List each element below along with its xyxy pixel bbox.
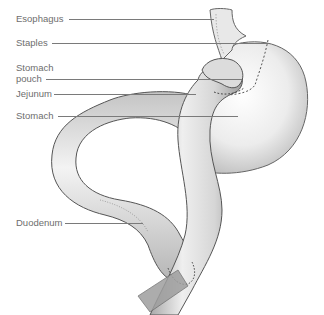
leader-line-esophagus [69,19,214,20]
label-esophagus: Esophagus [16,13,64,24]
label-duodenum: Duodenum [16,217,62,228]
leader-line-stomach-pouch [46,79,242,80]
label-stomach-pouch-line2: pouch [16,73,42,84]
label-jejunum: Jejunum [16,88,52,99]
leader-line-staples [52,43,268,44]
leader-line-jejunum [54,94,196,95]
label-stomach-pouch-line1: Stomach [16,62,54,73]
leader-line-stomach [58,116,238,117]
leader-line-duodenum [65,223,143,224]
gastric-bypass-diagram: Esophagus Staples Stomach pouch Jejunum … [0,0,324,315]
label-staples: Staples [16,37,48,48]
label-stomach: Stomach [16,110,54,121]
duodenum-loop [52,92,196,282]
anatomy-illustration [0,0,324,315]
